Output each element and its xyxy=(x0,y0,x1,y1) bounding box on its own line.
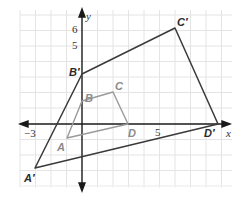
vertex-label-C-prime: C′ xyxy=(177,16,189,28)
vertex-label-A-prime: A′ xyxy=(23,172,36,184)
vertex-label-D-prime: D′ xyxy=(204,127,216,139)
y-axis-up-arrow-icon xyxy=(79,9,85,17)
x-tick-neg3: −3 xyxy=(24,127,36,139)
x-axis-label: x xyxy=(225,127,231,139)
vertex-label-C: C xyxy=(115,80,124,92)
y-tick-5: 5 xyxy=(72,39,78,51)
vertex-label-B: B xyxy=(85,92,93,104)
vertex-label-B-prime: B′ xyxy=(69,66,81,78)
x-tick-5: 5 xyxy=(155,126,161,138)
grid xyxy=(20,10,232,188)
vertex-label-A: A xyxy=(56,141,65,153)
y-axis-label: y xyxy=(85,10,91,22)
coordinate-plane-diagram: y x 6 5 −3 5 A B C D A′ B′ C′ D′ xyxy=(0,0,246,207)
vertex-label-D: D xyxy=(128,127,136,139)
y-tick-6: 6 xyxy=(72,23,78,35)
